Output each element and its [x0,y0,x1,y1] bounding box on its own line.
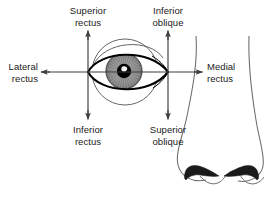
nose-left-contour [177,36,206,181]
anatomical-illustration [0,0,270,200]
label-inferior-oblique: Inferior oblique [153,5,184,28]
label-medial-rectus: Medial rectus [207,61,269,84]
diagram-canvas: Superior rectus Inferior oblique Lateral… [0,0,270,200]
iris-group [106,53,142,89]
label-inferior-rectus: Inferior rectus [73,124,103,147]
label-superior-rectus: Superior rectus [70,5,106,28]
label-lateral-rectus: Lateral rectus [0,61,38,84]
label-superior-oblique: Superior oblique [150,124,186,147]
nose-right-contour [238,36,263,181]
nose-illustration [177,36,264,184]
